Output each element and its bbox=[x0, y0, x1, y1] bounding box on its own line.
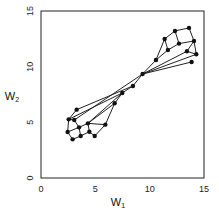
x-tick-5: 5 bbox=[93, 184, 98, 194]
graph-edge bbox=[74, 74, 142, 120]
graph-edge bbox=[69, 93, 123, 119]
graph-edge bbox=[179, 41, 194, 44]
graph-node bbox=[78, 134, 82, 138]
graph-node bbox=[162, 37, 166, 41]
graph-node bbox=[70, 137, 74, 141]
graph-node bbox=[103, 122, 107, 126]
graph-node bbox=[77, 125, 81, 129]
x-tick-0: 0 bbox=[38, 184, 43, 194]
y-tick-10: 10 bbox=[25, 62, 35, 72]
graph-node bbox=[65, 130, 69, 134]
svg-text:W1: W1 bbox=[111, 196, 125, 209]
graph-edge bbox=[143, 62, 192, 74]
graph-node bbox=[86, 121, 90, 125]
graph-node bbox=[177, 41, 181, 45]
graph-node bbox=[131, 84, 135, 88]
graph-node bbox=[192, 39, 196, 43]
network-plot: 0 5 10 15 0 5 10 15 W1 W2 bbox=[0, 0, 219, 214]
graph-node bbox=[140, 72, 144, 76]
x-axis-label: W1 bbox=[111, 196, 125, 209]
graph-edge bbox=[77, 86, 133, 110]
graph-edge bbox=[88, 123, 105, 124]
y-axis-label: W2 bbox=[5, 90, 19, 103]
graph-node bbox=[87, 129, 91, 133]
graph-node bbox=[67, 117, 71, 121]
graph-node bbox=[112, 101, 116, 105]
graph-node bbox=[185, 49, 189, 53]
graph-node bbox=[74, 107, 78, 111]
y-tick-15: 15 bbox=[25, 6, 35, 16]
graph-edge bbox=[95, 125, 106, 136]
graph-node bbox=[154, 58, 158, 62]
graph-node bbox=[120, 91, 124, 95]
graph-edge bbox=[143, 54, 197, 74]
graph-node bbox=[92, 134, 96, 138]
x-tick-15: 15 bbox=[199, 184, 209, 194]
y-tick-5: 5 bbox=[25, 120, 35, 125]
graph-node bbox=[166, 48, 170, 52]
y-tick-0: 0 bbox=[25, 175, 35, 180]
x-tick-10: 10 bbox=[145, 184, 155, 194]
graph-node bbox=[187, 26, 191, 30]
graph-node bbox=[72, 118, 76, 122]
graph-node bbox=[173, 29, 177, 33]
graph-node bbox=[194, 52, 198, 56]
svg-text:W2: W2 bbox=[5, 90, 19, 103]
graph-edge bbox=[143, 51, 187, 74]
graph-node bbox=[189, 60, 193, 64]
